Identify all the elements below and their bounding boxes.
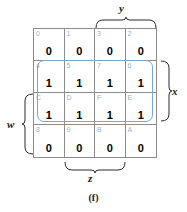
cell-index: E bbox=[128, 93, 133, 102]
figure-caption: (f) bbox=[0, 192, 187, 203]
cell-index: A bbox=[128, 125, 133, 134]
cell-index: 9 bbox=[67, 125, 71, 134]
cell-value: 1 bbox=[34, 77, 64, 89]
kmap-cell[interactable]: 7 1 bbox=[95, 61, 126, 93]
cell-index: 8 bbox=[36, 125, 40, 134]
cell-value: 0 bbox=[65, 45, 95, 57]
cell-index: 2 bbox=[128, 29, 132, 38]
kmap-cell[interactable]: C 1 bbox=[34, 93, 65, 125]
kmap-cell[interactable]: F 1 bbox=[95, 93, 126, 125]
cell-value: 0 bbox=[34, 45, 64, 57]
kmap-cell[interactable]: 0 0 bbox=[34, 29, 65, 61]
cell-value: 1 bbox=[65, 77, 95, 89]
kmap-cell[interactable]: D 1 bbox=[65, 93, 96, 125]
kmap-cell[interactable]: B 0 bbox=[95, 125, 126, 157]
cell-index: F bbox=[97, 93, 101, 102]
cell-index: C bbox=[36, 93, 41, 102]
kmap-cell[interactable]: 5 1 bbox=[65, 61, 96, 93]
cell-value: 1 bbox=[34, 109, 64, 121]
kmap-cell[interactable]: 2 0 bbox=[126, 29, 157, 61]
kmap-cell[interactable]: 1 0 bbox=[65, 29, 96, 61]
karnaugh-map-figure: y x w z 0 0 1 0 3 0 2 0 4 bbox=[0, 0, 187, 212]
cell-value: 1 bbox=[126, 77, 157, 89]
cell-index: D bbox=[67, 93, 72, 102]
variable-label-x: x bbox=[172, 85, 178, 97]
kmap-cell[interactable]: 3 0 bbox=[95, 29, 126, 61]
kmap-cell[interactable]: 9 0 bbox=[65, 125, 96, 157]
cell-value: 0 bbox=[65, 142, 95, 154]
cell-index: 1 bbox=[67, 29, 71, 38]
cell-value: 1 bbox=[126, 109, 157, 121]
kmap-grid: 0 0 1 0 3 0 2 0 4 1 5 1 7 1 6 1 bbox=[33, 28, 157, 158]
cell-value: 0 bbox=[126, 45, 157, 57]
cell-value: 0 bbox=[95, 45, 125, 57]
cell-index: 6 bbox=[128, 61, 132, 70]
variable-label-z: z bbox=[88, 172, 92, 184]
cell-value: 0 bbox=[34, 142, 64, 154]
cell-value: 1 bbox=[65, 109, 95, 121]
cell-value: 1 bbox=[95, 109, 125, 121]
kmap-cell[interactable]: A 0 bbox=[126, 125, 157, 157]
kmap-cell[interactable]: E 1 bbox=[126, 93, 157, 125]
variable-label-w: w bbox=[7, 118, 14, 130]
brace-x bbox=[160, 60, 172, 122]
kmap-cell[interactable]: 6 1 bbox=[126, 61, 157, 93]
kmap-cell[interactable]: 8 0 bbox=[34, 125, 65, 157]
variable-label-y: y bbox=[119, 2, 124, 14]
cell-index: 0 bbox=[36, 29, 40, 38]
cell-value: 0 bbox=[95, 142, 125, 154]
brace-z bbox=[64, 161, 126, 173]
cell-value: 0 bbox=[126, 142, 157, 154]
cell-index: 5 bbox=[67, 61, 71, 70]
kmap-cell[interactable]: 4 1 bbox=[34, 61, 65, 93]
cell-value: 1 bbox=[95, 77, 125, 89]
cell-index: 7 bbox=[97, 61, 101, 70]
cell-index: 3 bbox=[97, 29, 101, 38]
cell-index: B bbox=[97, 125, 102, 134]
cell-index: 4 bbox=[36, 61, 40, 70]
